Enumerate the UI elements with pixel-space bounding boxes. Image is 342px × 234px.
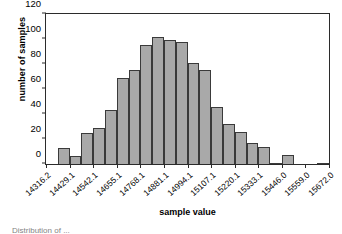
histogram-bar (270, 163, 282, 164)
x-tick-label: 14994.1 (165, 170, 195, 198)
bar-slot (306, 14, 318, 164)
x-tick-label: 14881.1 (141, 170, 171, 198)
y-axis-title: number of samples (17, 0, 27, 119)
bar-slot (317, 14, 329, 164)
bar-slot (46, 14, 58, 164)
histogram-bar (258, 147, 270, 165)
x-tick-mark (258, 164, 259, 168)
bar-slot (129, 14, 141, 164)
y-tick-label: 100 (25, 23, 46, 34)
bar-slot (199, 14, 211, 164)
bar-slot (211, 14, 223, 164)
bar-slot (188, 14, 200, 164)
histogram-bar (58, 148, 70, 164)
histogram-bar (129, 70, 141, 164)
histogram-bar (81, 133, 93, 164)
histogram-bar (152, 37, 164, 164)
histogram-bar (70, 156, 82, 164)
x-tick-mark (46, 164, 47, 168)
bar-slot (258, 14, 270, 164)
x-tick-mark (140, 164, 141, 168)
bar-slot (294, 14, 306, 164)
bar-slot (176, 14, 188, 164)
histogram-bar (188, 63, 200, 164)
bar-slot (247, 14, 259, 164)
x-tick-mark (70, 164, 71, 168)
histogram-bar (164, 40, 176, 164)
x-tick-mark (164, 164, 165, 168)
histogram-bar (211, 107, 223, 165)
x-tick-mark (93, 164, 94, 168)
plot-area: 020406080100120 14316.214429.114542.1146… (45, 13, 330, 165)
histogram-bar (117, 78, 129, 164)
figure-caption: Distribution of ... (12, 226, 332, 234)
bar-series (46, 14, 329, 164)
y-tick-label: 80 (30, 48, 46, 59)
histogram-bar (235, 132, 247, 165)
histogram-bar (223, 124, 235, 164)
x-tick-mark (188, 164, 189, 168)
x-tick-label: 14429.1 (47, 170, 77, 198)
bar-slot (58, 14, 70, 164)
histogram-bar (247, 143, 259, 164)
bar-slot (270, 14, 282, 164)
x-tick-label: 14316.2 (23, 170, 53, 198)
x-tick-mark (211, 164, 212, 168)
bar-slot (70, 14, 82, 164)
histogram-bar (176, 42, 188, 164)
y-tick-label: 120 (25, 0, 46, 9)
bar-slot (140, 14, 152, 164)
x-tick-mark (117, 164, 118, 168)
bar-slot (282, 14, 294, 164)
bar-slot (105, 14, 117, 164)
histogram-bar (282, 155, 294, 164)
x-tick-label: 15672.0 (306, 170, 336, 198)
y-tick-label: 20 (30, 123, 46, 134)
y-tick-label: 60 (30, 73, 46, 84)
histogram-bar (317, 163, 329, 164)
y-tick-label: 0 (36, 148, 46, 159)
histogram-bar (105, 110, 117, 164)
bar-slot (81, 14, 93, 164)
bar-slot (93, 14, 105, 164)
bar-slot (152, 14, 164, 164)
x-tick-mark (329, 164, 330, 168)
x-axis-title: sample value (45, 207, 330, 217)
x-tick-mark (282, 164, 283, 168)
x-tick-label: 14655.1 (94, 170, 124, 198)
histogram-bar (140, 45, 152, 164)
y-tick-label: 40 (30, 98, 46, 109)
histogram-bar (199, 70, 211, 164)
bar-slot (235, 14, 247, 164)
bar-slot (117, 14, 129, 164)
x-tick-label: 15220.1 (212, 170, 242, 198)
histogram-bar (93, 128, 105, 164)
x-tick-mark (235, 164, 236, 168)
bar-slot (223, 14, 235, 164)
bar-slot (164, 14, 176, 164)
histogram-figure: number of samples 020406080100120 14316.… (0, 0, 342, 234)
x-tick-mark (305, 164, 306, 168)
